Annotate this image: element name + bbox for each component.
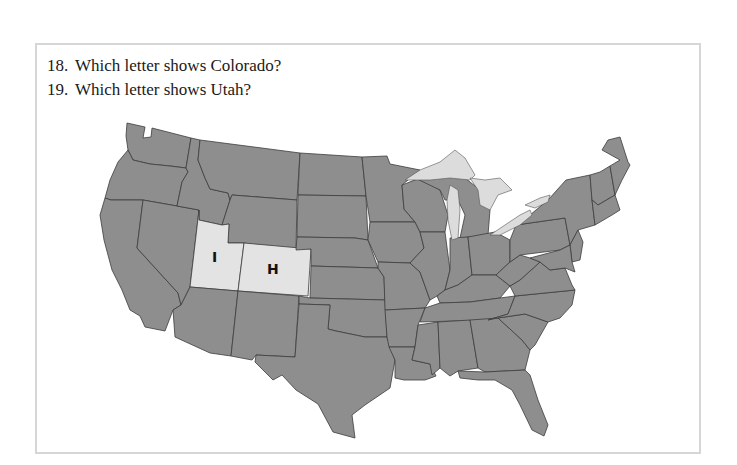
state-wyoming bbox=[222, 195, 297, 250]
lake-superior bbox=[405, 150, 475, 180]
state-north-dakota bbox=[298, 153, 366, 196]
state-new-mexico bbox=[231, 291, 299, 360]
state-kansas bbox=[310, 266, 385, 300]
label-i: I bbox=[212, 249, 217, 265]
state-florida bbox=[458, 370, 548, 436]
lake-michigan bbox=[447, 185, 460, 240]
us-map: I H bbox=[0, 0, 737, 465]
state-south-dakota bbox=[297, 195, 368, 240]
label-h: H bbox=[267, 261, 279, 277]
